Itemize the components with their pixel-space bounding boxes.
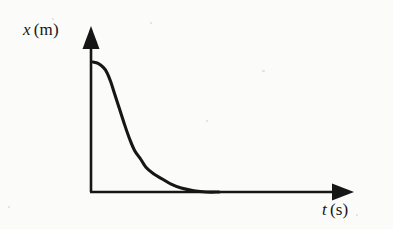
x-axis-unit: (s) [330,200,349,219]
axes-group [83,26,355,201]
decay-curve [93,62,219,192]
y-axis-unit: (m) [34,20,59,39]
physics-graph-figure: x(m) t(s) [0,0,393,229]
x-axis-label: t(s) [322,200,348,220]
y-axis-symbol: x [23,20,34,39]
x-axis-arrowhead [332,184,354,201]
x-axis-symbol: t [322,200,330,219]
y-axis-arrowhead [83,26,100,49]
graph-canvas [0,0,393,229]
y-axis-label: x(m) [23,20,59,40]
